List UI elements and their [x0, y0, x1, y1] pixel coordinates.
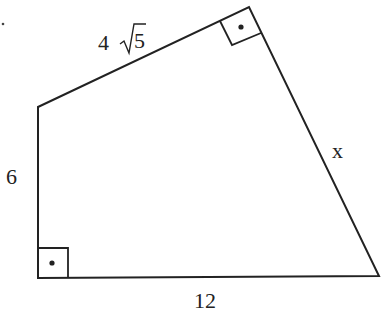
label-bottom-side: 12 — [194, 290, 216, 312]
label-top-coefficient: 4 — [98, 32, 109, 54]
quadrilateral-figure — [0, 0, 387, 313]
label-right-side: x — [332, 140, 343, 162]
label-top-radicand: 5 — [134, 30, 145, 52]
right-angle-dot-bottom-left — [49, 260, 54, 265]
label-left-side: 6 — [6, 166, 17, 188]
stray-dot — [2, 23, 5, 26]
quadrilateral-outline — [38, 7, 379, 278]
right-angle-dot-top — [238, 24, 243, 29]
